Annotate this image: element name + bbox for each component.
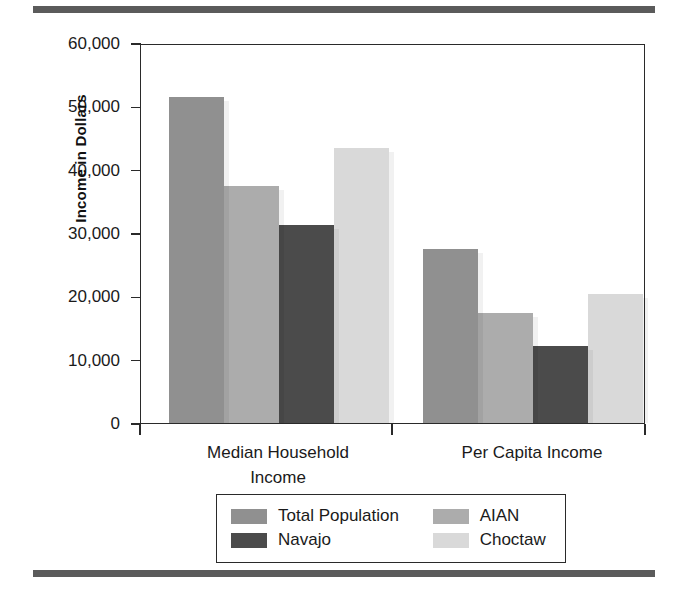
bar <box>169 97 224 423</box>
bottom-rule <box>33 570 655 577</box>
x-tick-mark <box>391 424 393 435</box>
legend-label-navajo: Navajo <box>267 530 331 550</box>
legend-label-aian: AIAN <box>469 506 520 526</box>
plot-area <box>140 44 645 424</box>
legend-item-choctaw[interactable]: Choctaw <box>433 528 551 552</box>
legend-label-choctaw: Choctaw <box>469 530 546 550</box>
legend-item-total-population[interactable]: Total Population <box>231 504 407 528</box>
bar <box>588 294 643 423</box>
legend-column-gap <box>407 504 433 528</box>
y-tick-label: 30,000 <box>0 225 120 242</box>
bar <box>279 225 334 423</box>
figure-container: 60,00050,00040,00030,00020,00010,0000 In… <box>0 0 681 594</box>
bar <box>533 346 588 423</box>
legend-swatch-aian <box>433 509 469 524</box>
top-rule <box>33 6 655 13</box>
y-tick-mark <box>131 360 141 362</box>
y-axis-title: Income in Dollars <box>72 59 89 259</box>
x-tick-mark <box>139 424 141 435</box>
y-tick-label: 60,000 <box>0 35 120 52</box>
legend-item-navajo[interactable]: Navajo <box>231 528 407 552</box>
y-tick-mark <box>131 43 141 45</box>
legend-row: Navajo Choctaw <box>231 528 551 552</box>
y-tick-mark <box>131 107 141 109</box>
bar <box>224 186 279 424</box>
bar <box>423 249 478 423</box>
legend-swatch-navajo <box>231 533 267 548</box>
y-tick-label: 40,000 <box>0 162 120 179</box>
legend-row: Total Population AIAN <box>231 504 551 528</box>
x-category-label: Median Household Income <box>158 440 398 490</box>
y-tick-mark <box>131 233 141 235</box>
bar <box>334 148 389 424</box>
y-tick-label: 50,000 <box>0 98 120 115</box>
legend-item-aian[interactable]: AIAN <box>433 504 551 528</box>
y-tick-mark <box>131 297 141 299</box>
legend-table: Total Population AIAN Navajo Choctaw <box>231 504 551 552</box>
x-tick-mark <box>644 424 646 435</box>
y-tick-label: 10,000 <box>0 352 120 369</box>
y-tick-label: 0 <box>0 415 120 432</box>
bar <box>478 313 533 423</box>
x-category-label: Per Capita Income <box>412 440 652 465</box>
legend-label-total-population: Total Population <box>267 506 399 526</box>
chart-legend: Total Population AIAN Navajo Choctaw <box>216 494 566 563</box>
legend-swatch-total-population <box>231 509 267 524</box>
y-tick-mark <box>131 170 141 172</box>
legend-column-gap <box>407 528 433 552</box>
legend-swatch-choctaw <box>433 533 469 548</box>
y-tick-label: 20,000 <box>0 288 120 305</box>
